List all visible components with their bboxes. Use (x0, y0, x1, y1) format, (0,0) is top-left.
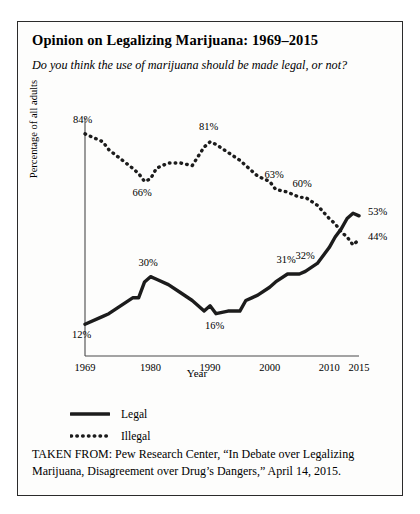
figure-container: Opinion on Legalizing Marijuana: 1969–20… (17, 21, 403, 496)
x-tick-1990: 1990 (180, 362, 240, 373)
legend-swatch-legal (70, 408, 110, 420)
point-label-legal-2003: 31% (277, 254, 296, 265)
point-label-legal-1969: 12% (72, 329, 91, 340)
point-label-illegal-1990: 81% (199, 121, 218, 132)
chart-series-group (85, 134, 359, 324)
point-label-legal-2015: 53% (368, 206, 387, 217)
legend-label-legal: Legal (121, 408, 147, 420)
figure-subtitle: Do you think the use of marijuana should… (32, 58, 347, 73)
point-label-legal-1991: 16% (205, 320, 224, 331)
chart-legend: LegalIllegal (70, 403, 150, 447)
point-label-illegal-2005: 60% (292, 178, 311, 189)
point-label-illegal-2001: 63% (265, 169, 284, 180)
legend-swatch-illegal (70, 430, 110, 442)
x-tick-2015: 2015 (329, 362, 389, 373)
figure-title: Opinion on Legalizing Marijuana: 1969–20… (32, 32, 318, 49)
legend-item-illegal: Illegal (70, 425, 150, 447)
x-tick-2000: 2000 (240, 362, 300, 373)
point-label-illegal-1969: 84% (73, 114, 92, 125)
series-line-legal (85, 213, 359, 324)
point-label-illegal-1979: 66% (133, 187, 152, 198)
legend-item-legal: Legal (70, 403, 150, 425)
series-line-illegal (85, 134, 359, 245)
x-tick-1980: 1980 (121, 362, 181, 373)
point-label-legal-2006: 32% (295, 250, 314, 261)
chart-plot-area: Percentage of all adults Year 1969198019… (32, 84, 388, 384)
point-label-legal-1980: 30% (139, 257, 158, 268)
legend-label-illegal: Illegal (121, 430, 150, 442)
point-label-illegal-2015: 44% (368, 231, 387, 242)
x-tick-1969: 1969 (55, 362, 115, 373)
source-citation: TAKEN FROM: Pew Research Center, “In Deb… (32, 446, 384, 481)
